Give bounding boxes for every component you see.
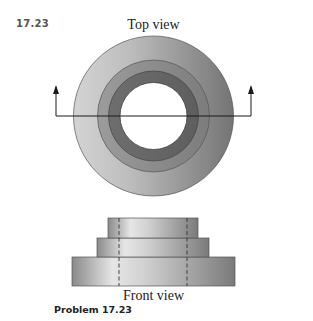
drawing-canvas (0, 0, 313, 321)
arrow-left-icon (53, 85, 59, 94)
front-view-label: Front view (0, 288, 307, 304)
figure-caption: Problem 17.23 (54, 304, 132, 315)
front-tier-bottom (72, 257, 235, 286)
arrow-right-icon (248, 85, 254, 94)
front-view (72, 218, 235, 286)
front-tier-top (108, 218, 198, 238)
front-tier-middle (97, 238, 209, 257)
top-view (53, 36, 254, 196)
